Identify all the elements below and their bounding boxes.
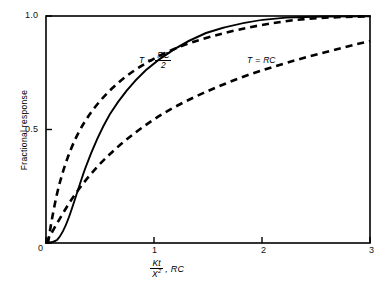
annotation-rc-equals: =: [255, 55, 260, 65]
annotation-rc-symbol: T: [247, 55, 252, 65]
x-axis-title: Kt X2 , RC: [150, 259, 184, 278]
x-tick-label-1: 1: [152, 245, 157, 255]
annotation-t-equals-rc: T = RC: [247, 55, 275, 65]
annotation-rc-value: RC: [263, 55, 275, 65]
annotation-rc-half-fraction: RC 2: [155, 51, 171, 69]
x-axis-ticks: [46, 237, 370, 243]
curve-t-equals-rc: [46, 41, 370, 243]
chart-plot-area: [0, 0, 387, 291]
annotation-rc-half-equals: =: [147, 55, 152, 65]
x-axis-title-suffix: , RC: [165, 264, 184, 274]
x-axis-title-fraction: Kt X2: [150, 259, 163, 278]
y-tick-label-1: 1.0: [25, 10, 38, 20]
x-tick-label-2: 2: [261, 245, 266, 255]
annotation-rc-half-denominator: 2: [159, 61, 168, 70]
curve-diffusion-solid: [46, 16, 370, 243]
curve-t-equals-rc-half: [48, 16, 370, 243]
y-axis-title: Fractional response: [19, 70, 29, 190]
x-tick-label-3: 3: [369, 245, 374, 255]
x-axis-title-denominator: X2: [150, 269, 163, 278]
y-axis-ticks: [46, 16, 52, 243]
y-tick-label-0: 0: [38, 243, 43, 253]
chart-figure: 1.0 0.5 0 1 2 3 Fractional response Kt X…: [0, 0, 387, 291]
annotation-rc-half-symbol: T: [139, 55, 144, 65]
plot-frame: [46, 16, 370, 243]
annotation-t-equals-rc-half: T = RC 2: [139, 51, 171, 69]
